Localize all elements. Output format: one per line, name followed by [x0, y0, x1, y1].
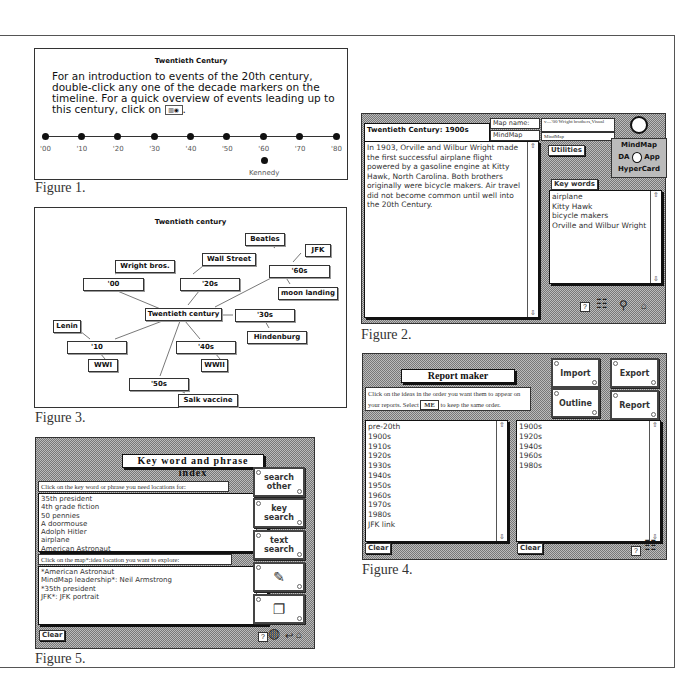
figure5-location-list[interactable]: *American AstronautMindMap leadership*: … [38, 566, 268, 625]
list-item[interactable]: A doormouse [41, 520, 265, 528]
body-scrollbar[interactable]: ⇧ ⇩ [527, 142, 538, 317]
timeline-marker-dot[interactable] [78, 133, 85, 140]
node-ww2[interactable]: WWII [201, 359, 228, 372]
node-20s[interactable]: '20s [180, 278, 240, 291]
report-scrollbar[interactable]: ⇧ ⇩ [649, 421, 660, 541]
list-item[interactable]: Adolph Hitler [41, 528, 265, 536]
list-item[interactable]: JFK*: JFK portrait [41, 593, 265, 601]
list-item[interactable]: 1950s [368, 481, 505, 491]
scroll-up-icon[interactable]: ⇧ [529, 142, 537, 150]
ideas-scrollbar[interactable]: ⇧ ⇩ [496, 421, 507, 541]
figure5-keyword-list[interactable]: 35th president4th grade fiction50 pennie… [38, 493, 268, 552]
list-item[interactable]: *35th president [41, 585, 265, 593]
timeline-marker-dot[interactable] [42, 133, 49, 140]
node-lenin[interactable]: Lenin [53, 320, 81, 333]
return-arrow-icon[interactable]: ↩ [285, 631, 293, 641]
report-list-items[interactable]: 1900s1920s1940s1960s1980s [517, 421, 660, 472]
list-item[interactable]: bicycle makers [552, 211, 659, 221]
node-ww1[interactable]: WWI [88, 359, 118, 372]
list-item[interactable]: 1960s [368, 491, 505, 501]
list-item[interactable]: 1920s [368, 451, 505, 461]
ideas-list-items[interactable]: pre-20th1900s1910s1920s1930s1940s1950s19… [366, 421, 507, 531]
dial-icon[interactable] [630, 116, 648, 134]
timeline-marker-dot[interactable] [187, 133, 194, 140]
node-beatles[interactable]: Beatles [245, 233, 285, 246]
timeline-marker-dot[interactable] [260, 133, 267, 140]
list-item[interactable]: pre-20th [368, 422, 505, 432]
ideas-source-list[interactable]: pre-20th1900s1910s1920s1930s1940s1950s19… [365, 420, 508, 542]
search-other-button[interactable]: search other [253, 467, 305, 497]
list-item[interactable]: 1980s [368, 510, 505, 520]
list-item[interactable]: 1940s [368, 471, 505, 481]
timeline-marker-dot[interactable] [151, 133, 158, 140]
node-wright-bros[interactable]: Wright bros. [115, 260, 175, 273]
figure2-keyword-list[interactable]: airplaneKitty Hawkbicycle makersOrville … [549, 190, 662, 284]
node-10s[interactable]: '10 [67, 341, 127, 354]
node-jfk[interactable]: JFK [305, 244, 331, 257]
node-50s[interactable]: '50s [129, 378, 189, 391]
list-item[interactable]: Orville and Wilbur Wright [552, 221, 659, 231]
list-item[interactable]: *American Astronaut [41, 568, 265, 576]
location-list-items[interactable]: *American AstronautMindMap leadership*: … [39, 567, 267, 602]
list-item[interactable]: 1980s [519, 461, 658, 471]
overview-button-icon[interactable]: ▥◉ [165, 105, 183, 115]
magnifier-icon[interactable]: ⚲ [619, 300, 628, 310]
map-icon[interactable]: ☷ [596, 299, 608, 309]
list-item[interactable]: 4th grade fiction [41, 503, 265, 511]
help-icon[interactable]: ? [631, 546, 641, 556]
scroll-down-icon[interactable]: ⇩ [529, 309, 537, 317]
list-item[interactable]: 1910s [368, 442, 505, 452]
clear-button[interactable]: Clear [39, 630, 65, 641]
keyword-list-items[interactable]: airplaneKitty Hawkbicycle makersOrville … [550, 191, 661, 231]
report-order-list[interactable]: 1900s1920s1940s1960s1980s ⇧ ⇩ [516, 420, 661, 542]
key-search-button[interactable]: key search [253, 498, 305, 528]
map-icon[interactable]: ☷ [644, 540, 657, 550]
timeline-marker-dot[interactable] [223, 133, 230, 140]
list-item[interactable]: 1960s [519, 451, 658, 461]
list-item[interactable]: 1970s [368, 500, 505, 510]
help-icon[interactable]: ? [580, 302, 590, 312]
scroll-down-icon[interactable]: ⇩ [498, 533, 506, 541]
node-center[interactable]: Twentieth century [145, 308, 222, 321]
toggle-switch-icon[interactable] [632, 152, 642, 163]
timeline-marker-dot[interactable] [333, 133, 340, 140]
map-explore-button[interactable]: ✎ [253, 562, 305, 592]
text-search-button[interactable]: text search [253, 530, 305, 560]
clear-left-button[interactable]: Clear [365, 543, 391, 554]
node-hindenburg[interactable]: Hindenburg [247, 331, 307, 344]
outline-button[interactable]: Outline [551, 388, 600, 418]
map-name-value[interactable]: v—'00 Wright brothers,Visual [541, 118, 615, 132]
list-item[interactable]: 50 pennies [41, 512, 265, 520]
home-icon[interactable]: ⌂ [296, 630, 302, 640]
list-item[interactable]: JFK link [368, 520, 505, 530]
timeline-marker-dot[interactable] [296, 133, 303, 140]
list-item[interactable]: airplane [41, 536, 265, 544]
list-item[interactable]: 1900s [519, 422, 658, 432]
card-stack-button[interactable]: ❐ [253, 594, 305, 624]
globe-navigator-icon[interactable]: ◍ [268, 628, 280, 638]
mindmap-value[interactable]: MindMap [541, 132, 615, 141]
list-item[interactable]: American Astronaut [41, 545, 265, 553]
clear-right-button[interactable]: Clear [517, 543, 543, 554]
node-salk-vaccine[interactable]: Salk vaccine [178, 394, 238, 407]
keyword-list-items[interactable]: 35th president4th grade fiction50 pennie… [39, 494, 267, 554]
node-40s[interactable]: '40s [176, 341, 236, 354]
export-button[interactable]: Export [610, 358, 659, 388]
list-item[interactable]: 1920s [519, 432, 658, 442]
timeline-dot-kennedy[interactable] [261, 157, 268, 164]
list-item[interactable]: 35th president [41, 495, 265, 503]
node-60s[interactable]: '60s [269, 265, 330, 278]
home-icon[interactable]: ⌂ [641, 301, 647, 311]
list-item[interactable]: Kitty Hawk [552, 202, 659, 212]
import-button[interactable]: Import [551, 358, 600, 388]
help-icon[interactable]: ? [258, 632, 268, 642]
list-item[interactable]: MindMap leadership*: Neil Armstrong [41, 576, 265, 584]
node-30s[interactable]: '30s [235, 309, 295, 322]
scroll-up-icon[interactable]: ⇧ [651, 421, 659, 429]
node-moon-landing[interactable]: moon landing [278, 287, 338, 300]
node-00[interactable]: '00 [83, 278, 144, 291]
list-item[interactable]: airplane [552, 192, 659, 202]
scroll-up-icon[interactable]: ⇧ [498, 421, 506, 429]
scroll-down-icon[interactable]: ⇩ [652, 275, 660, 283]
node-wall-street[interactable]: Wall Street [202, 253, 256, 266]
